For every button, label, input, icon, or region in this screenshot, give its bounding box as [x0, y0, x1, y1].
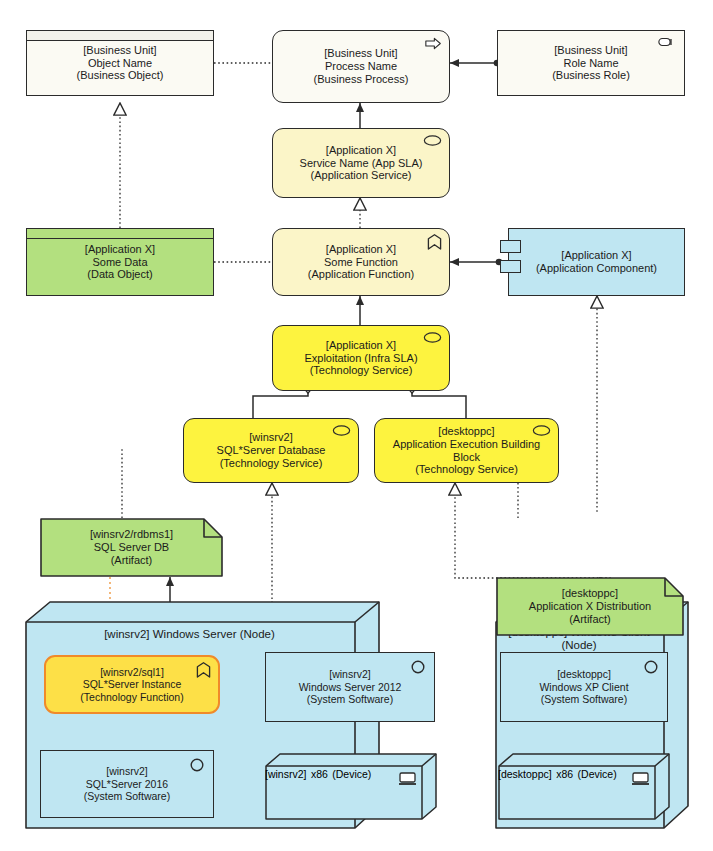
technology-function-qualifier: [winsrv2/sql1] [100, 666, 164, 678]
business-role-type: (Business Role) [552, 69, 630, 82]
device-pc-name: x86 [556, 768, 573, 780]
element-artifact-db[interactable]: [winsrv2/rdbms1] SQL Server DB (Artifact… [40, 518, 223, 577]
element-exec-service[interactable]: [desktoppc] Application Execution Buildi… [374, 418, 559, 483]
data-object-name: Some Data [92, 256, 147, 269]
device-server-type: (Device) [332, 768, 371, 780]
application-service-qualifier: [Application X] [326, 144, 396, 157]
application-function-type: (Application Function) [308, 268, 414, 281]
element-application-service[interactable]: [Application X] Service Name (App SLA) (… [272, 128, 450, 198]
artifact-dist-qualifier: [desktoppc] [529, 587, 651, 600]
application-component-qualifier: [Application X] [561, 249, 631, 262]
service-oval-icon [423, 331, 442, 344]
element-db-service[interactable]: [winsrv2] SQL*Server Database (Technolog… [183, 418, 359, 483]
diagram-canvas: business process (dotted association) --… [0, 0, 713, 851]
artifact-dist-name: Application X Distribution [529, 600, 651, 613]
db-service-type: (Technology Service) [220, 457, 323, 470]
technology-function-name: SQL*Server Instance [83, 678, 182, 690]
application-component-type: (Application Component) [536, 262, 657, 275]
process-arrow-icon [425, 36, 442, 51]
xp-name: Windows XP Client [539, 681, 628, 693]
device-pc-type: (Device) [578, 768, 617, 780]
business-process-qualifier: [Business Unit] [324, 47, 397, 60]
element-business-object[interactable]: [Business Unit] Object Name (Business Ob… [26, 30, 214, 96]
business-object-qualifier: [Business Unit] [83, 44, 156, 57]
infra-service-type: (Technology Service) [310, 364, 413, 377]
sql2016-qualifier: [winsrv2] [106, 765, 147, 777]
artifact-dist-type: (Artifact) [529, 613, 651, 626]
service-oval-icon [423, 134, 442, 147]
business-object-type: (Business Object) [77, 69, 164, 82]
element-business-process[interactable]: [Business Unit] Process Name (Business P… [272, 30, 450, 103]
element-application-function[interactable]: [Application X] Some Function (Applicati… [272, 228, 450, 296]
node-client-title-line2: (Node) [561, 639, 596, 651]
sql2016-name: SQL*Server 2016 [86, 778, 168, 790]
component-icon-lower [500, 260, 521, 273]
exec-service-type: (Technology Service) [415, 463, 518, 476]
ws2012-name: Windows Server 2012 [299, 681, 402, 693]
infra-service-name: Exploitation (Infra SLA) [304, 352, 417, 365]
artifact-db-qualifier: [winsrv2/rdbms1] [90, 528, 173, 541]
element-business-role[interactable]: [Business Unit] Role Name (Business Role… [497, 30, 685, 96]
artifact-db-name: SQL Server DB [90, 541, 173, 554]
device-pc-qualifier: [desktoppc] [498, 768, 552, 780]
application-function-name: Some Function [324, 256, 398, 269]
element-device-server[interactable]: [winsrv2] x86 (Device) [265, 752, 437, 820]
db-service-name: SQL*Server Database [217, 444, 326, 457]
business-role-icon [658, 36, 677, 48]
element-device-pc[interactable]: [desktoppc] x86 (Device) [498, 752, 670, 820]
infra-service-qualifier: [Application X] [326, 339, 396, 352]
device-server-qualifier: [winsrv2] [265, 768, 306, 780]
device-server-name: x86 [311, 768, 328, 780]
business-role-name: Role Name [563, 57, 618, 70]
function-arrow-icon [427, 234, 442, 250]
element-system-software-xp[interactable]: [desktoppc] Windows XP Client (System So… [500, 652, 668, 722]
application-service-name: Service Name (App SLA) [300, 157, 423, 170]
system-software-icon [190, 758, 204, 772]
service-oval-icon [532, 424, 551, 437]
application-function-qualifier: [Application X] [326, 243, 396, 256]
element-artifact-dist[interactable]: [desktoppc] Application X Distribution (… [496, 577, 684, 636]
element-system-software-sql2016[interactable]: [winsrv2] SQL*Server 2016 (System Softwa… [40, 750, 214, 818]
element-application-component[interactable]: [Application X] (Application Component) [508, 228, 685, 296]
element-technology-function[interactable]: [winsrv2/sql1] SQL*Server Instance (Tech… [44, 655, 220, 714]
ws2012-type: (System Software) [307, 693, 393, 705]
exec-service-name: Application Execution Building Block [387, 438, 546, 464]
business-object-icon [27, 31, 213, 41]
business-role-qualifier: [Business Unit] [554, 44, 627, 57]
system-software-icon [644, 660, 658, 674]
data-object-qualifier: [Application X] [85, 243, 155, 256]
component-icon [500, 240, 521, 253]
application-service-type: (Application Service) [311, 169, 412, 182]
technology-function-type: (Technology Function) [80, 691, 183, 703]
device-pc-text: [desktoppc] x86 (Device) [498, 752, 670, 782]
function-arrow-icon [196, 662, 211, 678]
business-object-name: Object Name [88, 57, 152, 70]
service-oval-icon [332, 424, 351, 437]
system-software-icon [411, 660, 425, 674]
business-process-name: Process Name [325, 60, 397, 73]
data-object-type: (Data Object) [87, 268, 152, 281]
db-service-qualifier: [winsrv2] [249, 431, 292, 444]
business-process-type: (Business Process) [314, 73, 409, 86]
data-object-icon [27, 229, 213, 239]
xp-qualifier: [desktoppc] [557, 668, 611, 680]
artifact-db-type: (Artifact) [90, 554, 173, 567]
exec-service-qualifier: [desktoppc] [438, 425, 494, 438]
element-data-object[interactable]: [Application X] Some Data (Data Object) [26, 228, 214, 296]
element-system-software-ws2012[interactable]: [winsrv2] Windows Server 2012 (System So… [265, 652, 435, 722]
node-server-title: [winsrv2] Windows Server (Node) [24, 628, 355, 641]
xp-type: (System Software) [541, 693, 627, 705]
device-server-text: [winsrv2] x86 (Device) [265, 752, 437, 782]
ws2012-qualifier: [winsrv2] [329, 668, 370, 680]
sql2016-type: (System Software) [84, 790, 170, 802]
element-infra-service[interactable]: [Application X] Exploitation (Infra SLA)… [272, 325, 450, 391]
